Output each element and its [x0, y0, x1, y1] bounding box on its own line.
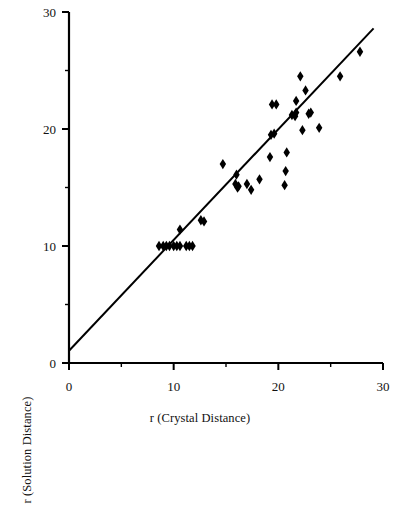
x-axis-label: r (Crystal Distance): [0, 411, 400, 426]
fit-line: [69, 28, 374, 350]
data-point-marker: [273, 99, 279, 109]
x-tick-label: 0: [66, 379, 73, 394]
data-point-marker: [297, 71, 303, 81]
regression-line: [69, 28, 374, 350]
data-point-marker: [244, 179, 250, 189]
data-point-marker: [293, 96, 299, 106]
y-tick-label: 30: [43, 5, 56, 20]
data-point-marker: [316, 123, 322, 133]
x-tick-label: 20: [272, 379, 285, 394]
tick-labels: 01020300102030: [43, 5, 390, 394]
x-tick-label: 10: [167, 379, 180, 394]
y-axis-label: r (Solution Distance): [20, 300, 35, 508]
x-tick-label: 30: [377, 379, 390, 394]
data-point-marker: [283, 147, 289, 157]
data-point-marker: [248, 185, 254, 195]
axes: [62, 12, 383, 370]
data-point-marker: [220, 159, 226, 169]
data-point-marker: [357, 47, 363, 57]
y-tick-label: 20: [43, 122, 56, 137]
data-point-marker: [281, 180, 287, 190]
data-point-marker: [282, 166, 288, 176]
y-tick-label: 10: [43, 239, 56, 254]
data-point-marker: [337, 71, 343, 81]
data-point-marker: [302, 85, 308, 95]
data-point-marker: [256, 174, 262, 184]
y-tick-label: 0: [50, 356, 57, 371]
data-point-marker: [177, 224, 183, 234]
data-point-marker: [299, 125, 305, 135]
data-point-marker: [267, 152, 273, 162]
